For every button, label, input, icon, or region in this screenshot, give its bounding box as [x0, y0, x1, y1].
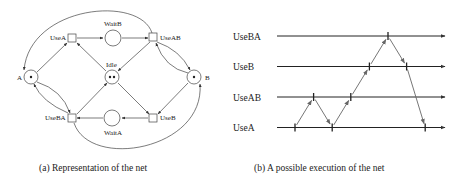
arc-UseAB-A: [24, 11, 152, 70]
label-UseA: UseA: [50, 34, 66, 42]
causal-arrow-e3-e4: [334, 100, 349, 125]
transition-UseAB: [149, 33, 157, 41]
label-UseB: UseB: [160, 114, 176, 122]
arc-UseBA-B: [74, 84, 200, 149]
label-A: A: [17, 74, 22, 82]
arc-Idle-UseA: [77, 43, 106, 71]
arc-UseBA-Idle: [77, 83, 107, 114]
token-Idle-2: [113, 76, 115, 78]
causal-arrow-e6-e7: [390, 39, 405, 64]
timeline-label-UseBA: UseBA: [233, 32, 261, 42]
token-Idle-1: [109, 76, 111, 78]
caption-a: (a) Representation of the net: [39, 163, 147, 173]
arc-UseAB-B: [157, 42, 190, 70]
execution-diagram: UseBAUseBUseABUseA: [233, 32, 445, 134]
place-WaitB: [105, 30, 121, 46]
label-UseBA: UseBA: [45, 114, 66, 122]
caption-b: (b) A possible execution of the net: [254, 163, 384, 173]
place-WaitA: [104, 110, 120, 126]
arc-B-UseAB: [156, 43, 188, 73]
transition-UseBA: [68, 114, 76, 122]
arc-Idle-UseB: [118, 83, 149, 114]
arc-B-UseB: [158, 83, 188, 114]
timeline-label-UseB: UseB: [233, 62, 254, 72]
label-WaitB: WaitB: [104, 20, 122, 28]
token-A: [30, 76, 32, 78]
timeline-label-UseAB: UseAB: [233, 93, 261, 103]
label-WaitA: WaitA: [104, 129, 122, 137]
transition-UseA: [68, 34, 76, 42]
timeline-label-UseA: UseA: [233, 123, 255, 133]
arc-UseAB-Idle: [118, 42, 150, 71]
label-UseAB: UseAB: [160, 34, 181, 42]
arc-A-UseBA: [37, 82, 70, 113]
label-Idle: Idle: [106, 61, 117, 69]
causal-arrow-e4-e5: [352, 70, 367, 95]
figure-canvas: A B Idle WaitB WaitA UseA UseAB UseB Use…: [0, 0, 456, 189]
causal-arrow-e5-e6: [371, 39, 386, 64]
label-B: B: [205, 74, 210, 82]
place-Idle: [105, 70, 119, 84]
token-B: [193, 76, 195, 78]
causal-arrow-e1-e2: [297, 100, 312, 125]
transition-UseB: [149, 114, 157, 122]
causal-arrow-e2-e3: [315, 100, 330, 125]
arc-A-UseA: [37, 43, 67, 72]
